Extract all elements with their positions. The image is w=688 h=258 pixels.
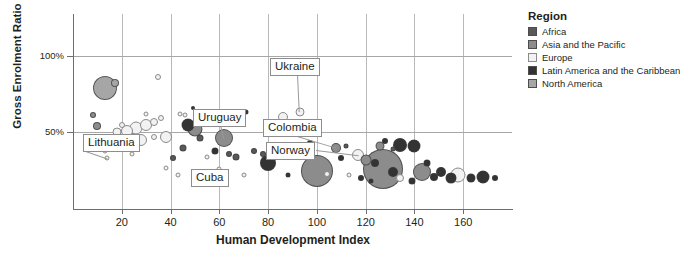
bubble-point bbox=[93, 122, 101, 130]
legend-item-label: Asia and the Pacific bbox=[542, 39, 625, 50]
bubble-point bbox=[196, 135, 203, 142]
legend-swatch-icon bbox=[528, 53, 537, 62]
bubble-point bbox=[158, 115, 164, 121]
plot-area: LithuaniaUruguayCubaUkraineColombiaNorwa… bbox=[73, 14, 512, 209]
y-axis-tick bbox=[67, 56, 73, 57]
bubble-point bbox=[408, 140, 421, 153]
bubble-point bbox=[430, 173, 438, 181]
annotation-label-norway: Norway bbox=[266, 142, 315, 160]
bubble-point bbox=[338, 155, 344, 161]
x-axis-tick bbox=[268, 209, 269, 214]
legend-swatch-icon bbox=[528, 40, 537, 49]
bubble-point bbox=[175, 173, 180, 178]
bubble-point bbox=[476, 170, 489, 183]
horizontal-gridline bbox=[73, 56, 512, 57]
x-axis-tick-label: 140 bbox=[405, 216, 423, 228]
bubble-point bbox=[382, 138, 388, 144]
legend-item-label: Latin America and the Caribbean bbox=[542, 65, 680, 76]
bubble-point bbox=[179, 144, 186, 151]
annotation-label-lithuania: Lithuania bbox=[83, 134, 140, 152]
annotation-label-ukraine: Ukraine bbox=[270, 58, 320, 76]
bubble-point bbox=[423, 159, 430, 166]
x-axis-title: Human Development Index bbox=[73, 233, 513, 247]
bubble-point bbox=[360, 154, 371, 165]
vertical-gridline bbox=[122, 14, 123, 209]
legend-item-label: Africa bbox=[542, 26, 566, 37]
x-axis-tick bbox=[317, 209, 318, 214]
bubble-point bbox=[205, 154, 210, 159]
bubble-point bbox=[358, 175, 364, 181]
y-axis-line bbox=[73, 14, 74, 210]
bubble-point bbox=[251, 148, 257, 154]
bubble-point bbox=[344, 144, 349, 149]
x-axis-tick-label: 100 bbox=[308, 216, 326, 228]
y-axis-title: Gross Enrolment Ratio bbox=[11, 0, 23, 141]
bubble-point bbox=[90, 112, 96, 118]
bubble-point bbox=[155, 74, 161, 80]
x-axis-tick bbox=[171, 209, 172, 214]
bubble-point bbox=[119, 122, 125, 128]
bubble-point bbox=[233, 153, 240, 160]
legend: Region AfricaAsia and the PacificEuropeL… bbox=[528, 10, 684, 90]
bubble-chart-figure: LithuaniaUruguayCubaUkraineColombiaNorwa… bbox=[0, 0, 688, 258]
legend-swatch-icon bbox=[528, 79, 537, 88]
bubble-point bbox=[295, 108, 304, 117]
legend-item[interactable]: North America bbox=[528, 77, 684, 89]
bubble-point bbox=[324, 171, 330, 177]
annotation-leader-line bbox=[297, 74, 300, 112]
x-axis-tick-label: 20 bbox=[116, 216, 128, 228]
x-axis-tick-label: 60 bbox=[213, 216, 225, 228]
legend-item[interactable]: Asia and the Pacific bbox=[528, 38, 684, 50]
legend-item[interactable]: Europe bbox=[528, 51, 684, 63]
bubble-point bbox=[371, 159, 379, 167]
legend-items: AfricaAsia and the PacificEuropeLatin Am… bbox=[528, 25, 684, 89]
bubble-point bbox=[285, 173, 290, 178]
bubble-point bbox=[150, 118, 158, 126]
legend-item[interactable]: Latin America and the Caribbean bbox=[528, 64, 684, 76]
x-axis-tick bbox=[219, 209, 220, 214]
bubble-point bbox=[390, 147, 395, 152]
bubble-point bbox=[160, 131, 172, 143]
x-axis-tick-label: 80 bbox=[262, 216, 274, 228]
annotation-label-uruguay: Uruguay bbox=[193, 109, 246, 127]
annotation-label-cuba: Cuba bbox=[191, 169, 229, 187]
x-axis-tick bbox=[122, 209, 123, 214]
bubble-point bbox=[183, 113, 188, 118]
legend-swatch-icon bbox=[528, 27, 537, 36]
legend-swatch-icon bbox=[528, 66, 537, 75]
bubble-point bbox=[144, 111, 149, 116]
bubble-point bbox=[151, 134, 157, 140]
x-axis-tick bbox=[366, 209, 367, 214]
bubble-point bbox=[163, 165, 168, 170]
bubble-point bbox=[396, 174, 404, 182]
bubble-point bbox=[492, 175, 498, 181]
x-axis-tick-label: 40 bbox=[164, 216, 176, 228]
bubble-point bbox=[409, 178, 416, 185]
bubble-point bbox=[241, 173, 246, 178]
bubble-point bbox=[226, 151, 232, 157]
x-axis-tick-label: 160 bbox=[454, 216, 472, 228]
bubble-point bbox=[368, 179, 373, 184]
bubble-point bbox=[215, 129, 233, 147]
x-axis-tick bbox=[463, 209, 464, 214]
bubble-point bbox=[446, 173, 457, 184]
vertical-gridline bbox=[268, 14, 269, 209]
bubble-point bbox=[211, 147, 218, 154]
bubble-point bbox=[170, 155, 176, 161]
bubble-point bbox=[346, 173, 351, 178]
legend-item-label: Europe bbox=[542, 52, 573, 63]
annotation-label-colombia: Colombia bbox=[263, 119, 322, 137]
x-axis-line bbox=[73, 209, 513, 210]
vertical-gridline bbox=[171, 14, 172, 209]
legend-item-label: North America bbox=[542, 78, 602, 89]
x-axis-tick bbox=[414, 209, 415, 214]
x-axis-tick-label: 120 bbox=[357, 216, 375, 228]
bubble-point bbox=[466, 174, 475, 183]
legend-title: Region bbox=[528, 10, 684, 22]
y-axis-tick bbox=[67, 132, 73, 133]
bubble-point bbox=[111, 79, 119, 87]
legend-item[interactable]: Africa bbox=[528, 25, 684, 37]
